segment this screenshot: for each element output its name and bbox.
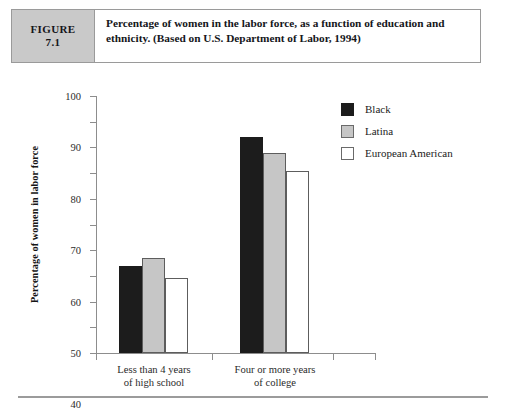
bar-black-group-2 — [240, 137, 263, 353]
x-category-label-line2: of college — [200, 376, 350, 389]
x-tick-1 — [212, 353, 213, 360]
bar-latina-group-2 — [263, 153, 286, 353]
figure-tag-number: 7.1 — [46, 36, 61, 49]
y-tick-label-40: 40 — [71, 399, 82, 410]
legend-label: Black — [365, 103, 391, 115]
y-tick-label-90: 90 — [71, 142, 82, 153]
legend-item-black: Black — [341, 98, 501, 120]
x-category-label-2: Four or more yearsof college — [200, 363, 350, 389]
y-tick-label-70: 70 — [71, 245, 82, 256]
x-tick-3 — [375, 353, 376, 360]
plot-region: 1009080706050403020100 — [96, 96, 375, 353]
figure-caption-block: FIGURE 7.1 Percentage of women in the la… — [11, 9, 481, 63]
legend-item-european-american: European American — [341, 142, 501, 164]
legend-item-latina: Latina — [341, 120, 501, 142]
y-tick-10: 10 — [90, 327, 96, 328]
figure-tag-word: FIGURE — [30, 23, 75, 36]
bar-european-american-group-1 — [165, 278, 188, 353]
legend-swatch-white — [341, 147, 354, 160]
legend-label: European American — [365, 147, 453, 159]
y-axis-title-text: Percentage of women in labor force — [30, 146, 41, 303]
chart-area: Percentage of women in labor force 10090… — [0, 63, 505, 393]
x-category-label-line1: Less than 4 years — [117, 364, 190, 375]
bottom-rule — [18, 396, 488, 398]
x-tick-0 — [96, 353, 97, 360]
y-tick-60: 60 — [90, 199, 96, 200]
y-tick-label-60: 60 — [71, 296, 82, 307]
y-tick-label-80: 80 — [71, 193, 82, 204]
y-tick-50: 50 — [90, 225, 96, 226]
y-tick-label-50: 50 — [71, 348, 82, 359]
figure-caption-text: Percentage of women in the labor force, … — [95, 10, 480, 62]
x-tick-2 — [333, 353, 334, 360]
bar-latina-group-1 — [142, 258, 165, 353]
y-tick-label-100: 100 — [65, 91, 81, 102]
legend-swatch-black — [341, 103, 354, 116]
x-axis-line — [96, 353, 376, 354]
legend-label: Latina — [365, 125, 393, 137]
y-axis-title: Percentage of women in labor force — [28, 96, 42, 353]
legend-swatch-gray — [341, 125, 354, 138]
y-tick-20: 20 — [90, 302, 96, 303]
bar-black-group-1 — [119, 266, 142, 353]
figure-number-tag: FIGURE 7.1 — [12, 10, 95, 62]
y-axis-line — [96, 96, 97, 354]
y-tick-100: 100 — [90, 96, 96, 97]
y-tick-30: 30 — [90, 276, 96, 277]
y-tick-80: 80 — [90, 147, 96, 148]
y-tick-70: 70 — [90, 173, 96, 174]
bar-european-american-group-2 — [286, 171, 309, 353]
y-tick-90: 90 — [90, 122, 96, 123]
x-category-label-line1: Four or more years — [235, 364, 316, 375]
y-tick-40: 40 — [90, 250, 96, 251]
chart-legend: BlackLatinaEuropean American — [341, 98, 501, 164]
